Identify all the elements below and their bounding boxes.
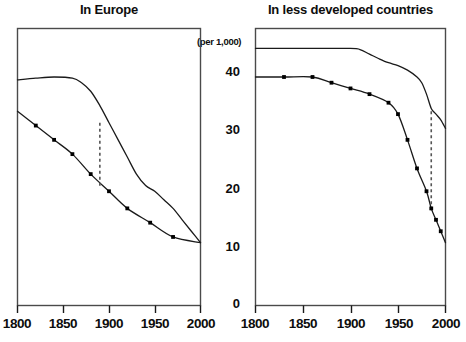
- data-point-marker: [89, 172, 93, 176]
- series-line-death-rate: [18, 111, 201, 242]
- data-point-marker: [415, 167, 419, 171]
- data-point-marker: [349, 87, 353, 91]
- figure-canvas: In Europe In less developed countries (p…: [0, 0, 466, 342]
- data-point-marker: [125, 206, 129, 210]
- data-point-marker: [107, 189, 111, 193]
- data-point-markers-less-developed: [282, 75, 443, 233]
- data-point-marker: [311, 75, 315, 79]
- series-line-death-rate: [256, 77, 446, 243]
- data-point-marker: [396, 112, 400, 116]
- data-point-marker: [282, 75, 286, 79]
- data-point-marker: [171, 235, 175, 239]
- data-point-marker: [71, 152, 75, 156]
- data-point-marker: [368, 92, 372, 96]
- data-point-markers-europe: [34, 124, 175, 239]
- series-line-birth-rate: [18, 77, 201, 243]
- data-point-marker: [148, 221, 152, 225]
- x-axis-ticks-europe: [18, 306, 201, 314]
- data-point-marker: [425, 189, 429, 193]
- data-point-marker: [34, 124, 38, 128]
- data-point-marker: [406, 138, 410, 142]
- panel-frame-europe: [18, 29, 201, 306]
- x-axis-ticks-less-developed: [256, 306, 446, 314]
- data-point-marker: [439, 229, 443, 233]
- data-point-marker: [52, 138, 56, 142]
- curves-europe: [18, 77, 201, 243]
- data-point-marker: [330, 81, 334, 85]
- data-point-marker: [434, 218, 438, 222]
- data-point-marker: [387, 101, 391, 105]
- plot-svg: [0, 0, 466, 342]
- data-point-marker: [429, 206, 433, 210]
